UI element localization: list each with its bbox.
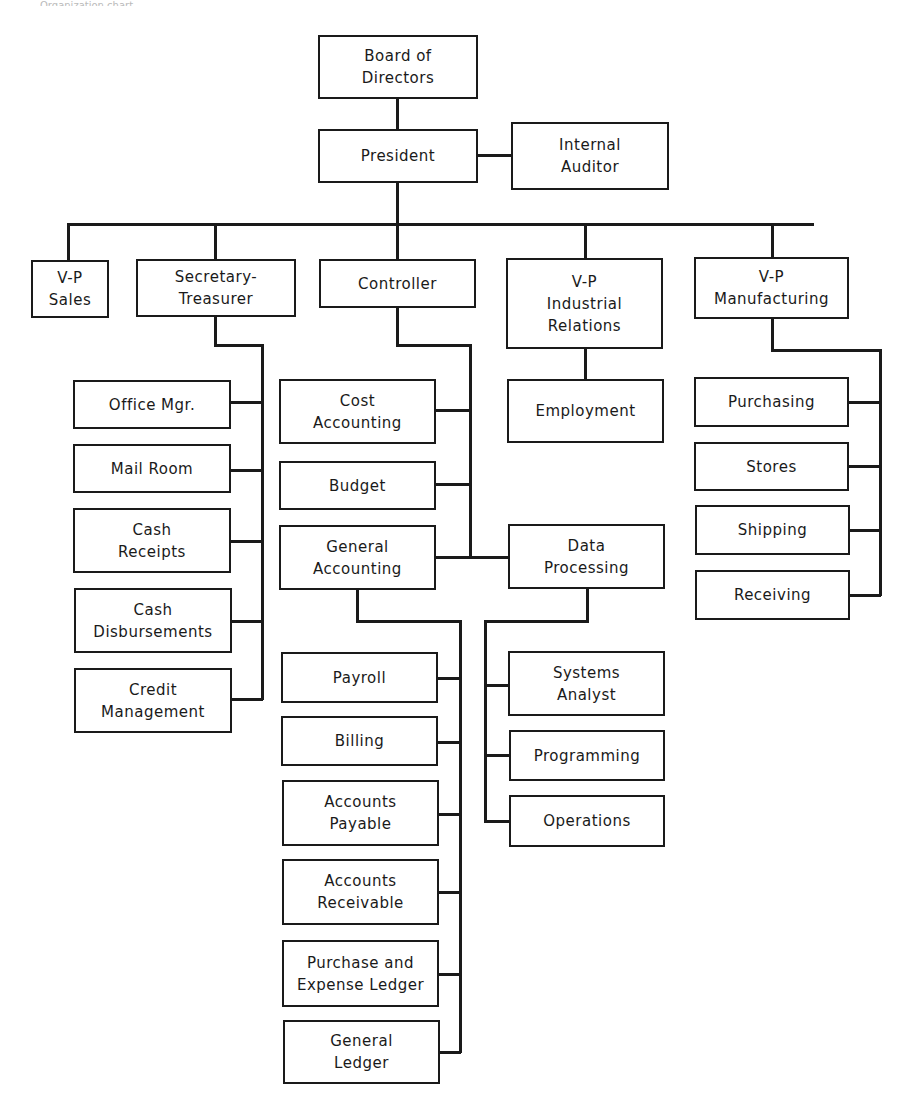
- node-programming: Programming: [509, 730, 665, 781]
- connector: [214, 316, 217, 346]
- node-vp-industrial-relations: V-P Industrial Relations: [506, 258, 663, 349]
- connector: [230, 698, 263, 701]
- connector: [484, 820, 510, 823]
- connector: [396, 223, 399, 261]
- connector: [434, 556, 508, 559]
- connector: [771, 318, 774, 351]
- connector: [230, 540, 263, 543]
- node-accounts-payable: Accounts Payable: [282, 780, 439, 846]
- connector: [214, 223, 217, 261]
- connector: [434, 483, 471, 486]
- connector: [434, 409, 471, 412]
- node-payroll: Payroll: [281, 652, 438, 703]
- node-board-of-directors: Board of Directors: [318, 35, 478, 99]
- node-office-mgr: Office Mgr.: [73, 380, 231, 429]
- connector: [847, 401, 881, 404]
- connector: [847, 529, 881, 532]
- connector: [484, 620, 589, 623]
- connector: [469, 344, 472, 558]
- connector: [459, 620, 462, 1053]
- connector: [879, 349, 882, 596]
- connector: [436, 813, 461, 816]
- node-vp-sales: V-P Sales: [31, 260, 109, 318]
- org-chart: Organization chart Board of: [0, 0, 908, 1106]
- connector: [586, 588, 589, 622]
- connector: [436, 891, 461, 894]
- connector: [356, 620, 461, 623]
- connector: [484, 754, 510, 757]
- node-operations: Operations: [509, 795, 665, 847]
- node-general-accounting: General Accounting: [279, 525, 436, 590]
- node-cash-receipts: Cash Receipts: [73, 508, 231, 573]
- connector: [230, 469, 263, 472]
- connector: [477, 154, 513, 157]
- node-data-processing: Data Processing: [508, 524, 665, 589]
- node-president: President: [318, 129, 478, 183]
- node-accounts-receivable: Accounts Receivable: [282, 859, 439, 925]
- connector: [584, 223, 587, 260]
- node-cash-disbursements: Cash Disbursements: [74, 588, 232, 653]
- connector: [847, 594, 881, 597]
- connector: [67, 223, 70, 263]
- connector: [230, 620, 263, 623]
- connector: [396, 306, 399, 346]
- connector: [67, 223, 814, 226]
- connector: [230, 401, 263, 404]
- node-employment: Employment: [507, 379, 664, 443]
- page-caption: Organization chart: [40, 0, 240, 6]
- connector: [771, 223, 774, 259]
- node-stores: Stores: [694, 442, 849, 491]
- node-mail-room: Mail Room: [73, 444, 231, 493]
- node-vp-manufacturing: V-P Manufacturing: [694, 257, 849, 319]
- connector: [436, 677, 461, 680]
- connector: [396, 344, 471, 347]
- node-receiving: Receiving: [695, 570, 850, 620]
- node-secretary-treasurer: Secretary- Treasurer: [136, 259, 296, 317]
- connector: [584, 348, 587, 380]
- node-purchasing: Purchasing: [694, 377, 849, 427]
- node-controller: Controller: [319, 259, 476, 308]
- connector: [847, 465, 881, 468]
- connector: [771, 349, 882, 352]
- node-cost-accounting: Cost Accounting: [279, 379, 436, 444]
- connector: [484, 620, 487, 822]
- node-budget: Budget: [279, 461, 436, 510]
- node-internal-auditor: Internal Auditor: [511, 122, 669, 190]
- node-purchase-expense-ledger: Purchase and Expense Ledger: [282, 940, 439, 1007]
- connector: [356, 588, 359, 622]
- connector: [436, 741, 461, 744]
- node-credit-management: Credit Management: [74, 668, 232, 733]
- node-billing: Billing: [281, 716, 438, 766]
- connector: [214, 344, 263, 347]
- node-general-ledger: General Ledger: [283, 1020, 440, 1084]
- connector: [484, 684, 510, 687]
- connector: [436, 973, 461, 976]
- connector: [261, 344, 264, 700]
- node-shipping: Shipping: [695, 505, 850, 555]
- node-systems-analyst: Systems Analyst: [508, 651, 665, 716]
